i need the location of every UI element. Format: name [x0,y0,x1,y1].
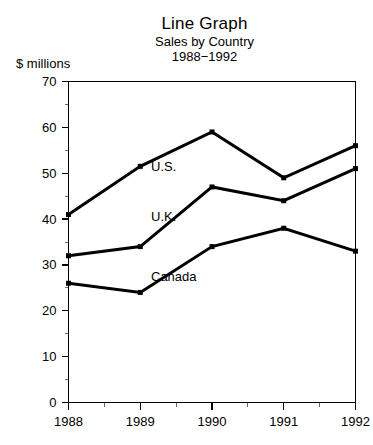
x-axis-tick-label: 1991 [269,414,298,429]
data-point-marker [353,249,358,254]
data-series [66,129,358,217]
x-axis-major-ticks [69,403,356,410]
series-line [69,132,356,215]
line-graph-figure: Line Graph Sales by Country 1988−1992 $ … [0,0,373,445]
data-point-marker [138,244,143,249]
y-axis-tick-label: 10 [42,349,56,364]
data-point-marker [66,253,71,258]
data-point-marker [138,290,143,295]
series-line [69,228,356,292]
data-point-marker [210,129,215,134]
data-point-marker [210,184,215,189]
plot-area: 010203040506070 19881989199019911992 U.S… [0,0,373,445]
y-axis-tick-labels: 010203040506070 [42,74,56,410]
data-point-marker [281,198,286,203]
data-point-marker [281,226,286,231]
y-axis-tick-label: 50 [42,166,56,181]
series-label: U.S. [151,159,176,174]
y-axis-tick-label: 40 [42,212,56,227]
data-series [66,226,358,295]
y-axis-tick-label: 0 [49,395,56,410]
data-series-group [66,129,358,295]
series-line [69,169,356,256]
x-axis-tick-label: 1992 [341,414,370,429]
series-label: Canada [151,269,197,284]
y-axis-tick-label: 60 [42,120,56,135]
data-point-marker [353,166,358,171]
y-axis-minor-ticks [65,104,69,379]
data-point-marker [281,175,286,180]
y-axis-tick-label: 70 [42,74,56,89]
series-label: U.K. [151,209,176,224]
series-inline-labels: U.S.U.K.Canada [151,159,197,284]
x-axis-tick-label: 1989 [126,414,155,429]
x-axis-tick-label: 1988 [54,414,83,429]
data-point-marker [66,212,71,217]
data-point-marker [353,143,358,148]
y-axis-tick-label: 20 [42,303,56,318]
data-point-marker [66,281,71,286]
x-axis-tick-labels: 19881989199019911992 [54,414,370,429]
data-point-marker [210,244,215,249]
y-axis-tick-label: 30 [42,257,56,272]
data-point-marker [138,164,143,169]
x-axis-tick-label: 1990 [198,414,227,429]
